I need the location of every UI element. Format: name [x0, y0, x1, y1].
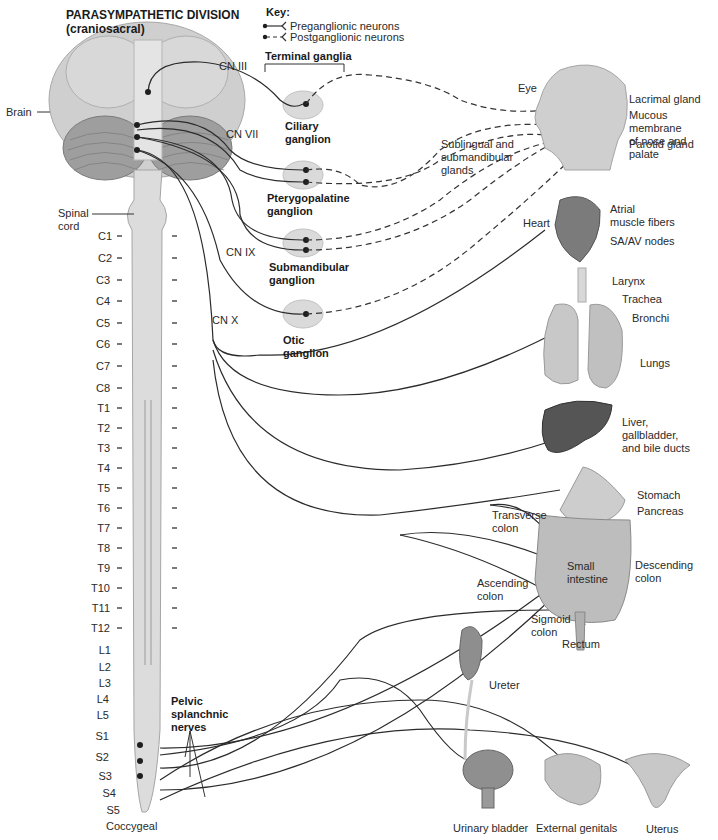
segment-coccygeal: Coccygeal: [106, 820, 157, 833]
brain-label: Brain: [6, 106, 32, 119]
segment-l3: L3: [71, 677, 111, 689]
rectum-label: Rectum: [562, 638, 600, 651]
lungs-label: Lungs: [640, 357, 670, 370]
key-heading: Key:: [266, 6, 290, 19]
ciliary-ganglion-label: Ciliary ganglion: [285, 120, 331, 146]
lacrimal-gland-label: Lacrimal gland: [629, 93, 701, 106]
trachea-label: Trachea: [622, 293, 662, 306]
segment-l5: L5: [69, 709, 109, 721]
bronchi-label: Bronchi: [632, 312, 669, 325]
otic-ganglion-label: Otic ganglion: [283, 334, 329, 360]
small-intestine-label: Small intestine: [567, 560, 608, 586]
segment-s1: S1: [69, 730, 109, 742]
descending-colon-label: Descending colon: [635, 559, 693, 585]
segment-c6: C6: [70, 338, 110, 350]
terminal-ganglia-label: Terminal ganglia: [265, 50, 352, 63]
segment-t12: T12: [70, 622, 110, 634]
segment-c1: C1: [72, 230, 112, 242]
segment-c4: C4: [70, 295, 110, 307]
segment-t3: T3: [70, 442, 110, 454]
segment-c3: C3: [70, 274, 110, 286]
segment-s4: S4: [76, 787, 116, 799]
segment-c7: C7: [70, 360, 110, 372]
segment-t1: T1: [70, 402, 110, 414]
urinary-bladder-label: Urinary bladder: [453, 822, 528, 835]
stomach-label: Stomach: [637, 489, 680, 502]
transverse-colon-label: Transverse colon: [492, 509, 547, 535]
segment-l4: L4: [69, 693, 109, 705]
segment-t7: T7: [70, 522, 110, 534]
segment-c5: C5: [70, 317, 110, 329]
sublingual-glands-label: Sublingual and submandibular glands: [441, 138, 514, 177]
page-title: PARASYMPATHETIC DIVISION (craniosacral): [66, 8, 239, 36]
segment-t8: T8: [70, 542, 110, 554]
segment-l1: L1: [71, 644, 111, 656]
segment-c8: C8: [70, 382, 110, 394]
pterygopalatine-ganglion-label: Pterygopalatine ganglion: [267, 192, 350, 218]
segment-c2: C2: [72, 252, 112, 264]
external-genitals-label: External genitals: [536, 822, 617, 835]
segment-t4: T4: [70, 462, 110, 474]
cn-ix-label: CN IX: [226, 246, 255, 259]
parotid-gland-label: Parotid gland: [629, 138, 694, 151]
segment-t11: T11: [70, 602, 110, 614]
segment-t6: T6: [70, 502, 110, 514]
submandibular-ganglion-label: Submandibular ganglion: [269, 261, 349, 287]
larynx-label: Larynx: [612, 275, 645, 288]
segment-t2: T2: [70, 422, 110, 434]
key-postganglionic-label: Postganglionic neurons: [290, 31, 404, 44]
segment-t10: T10: [70, 582, 110, 594]
heart-label: Heart: [523, 217, 550, 230]
cn-vii-label: CN VII: [226, 128, 258, 141]
mucous-membrane-label: Mucous membrane of nose and palate: [629, 109, 718, 161]
eye-label: Eye: [518, 82, 537, 95]
segment-s3: S3: [72, 770, 112, 782]
pancreas-label: Pancreas: [637, 505, 683, 518]
key-glyphs: [266, 22, 286, 41]
pelvic-splanchnic-nerves-label: Pelvic splanchnic nerves: [171, 695, 228, 734]
spinal-cord-illustration: [127, 170, 166, 812]
atrial-muscle-fibers-label: Atrial muscle fibers: [610, 203, 675, 229]
sigmoid-colon-label: Sigmoid colon: [531, 613, 571, 639]
cn-x-label: CN X: [212, 314, 238, 327]
segment-s5: S5: [80, 804, 120, 816]
liver-label: Liver, gallbladder, and bile ducts: [622, 416, 690, 455]
ascending-colon-label: Ascending colon: [477, 577, 528, 603]
brain-illustration: [49, 22, 245, 180]
segment-s2: S2: [69, 751, 109, 763]
segment-l2: L2: [71, 661, 111, 673]
cn-iii-label: CN III: [219, 60, 247, 73]
segment-t5: T5: [70, 482, 110, 494]
ureter-label: Ureter: [489, 679, 520, 692]
uterus-label: Uterus: [646, 823, 678, 836]
sa-av-nodes-label: SA/AV nodes: [610, 235, 675, 248]
segment-t9: T9: [70, 562, 110, 574]
